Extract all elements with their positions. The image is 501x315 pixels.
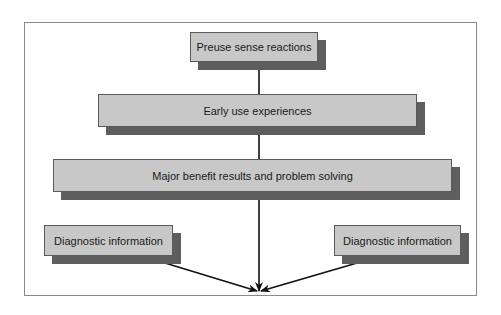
node-label: Diagnostic information <box>54 235 163 247</box>
node-label: Preuse sense reactions <box>197 41 312 53</box>
node-label: Early use experiences <box>203 105 311 117</box>
node-diagnostic-information-right: Diagnostic information <box>334 225 461 256</box>
node-label: Major benefit results and problem solvin… <box>152 170 353 182</box>
node-major-benefit-results: Major benefit results and problem solvin… <box>53 159 452 192</box>
node-early-use-experiences: Early use experiences <box>98 94 417 127</box>
node-label: Diagnostic information <box>343 235 452 247</box>
node-preuse-sense-reactions: Preuse sense reactions <box>190 32 318 62</box>
node-diagnostic-information-left: Diagnostic information <box>44 225 173 256</box>
